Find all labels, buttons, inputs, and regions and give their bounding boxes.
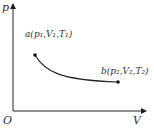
y-axis-label: p	[2, 1, 9, 14]
origin-label: O	[3, 114, 12, 127]
point-b-label: b(p₂,V₂,T₂)	[101, 66, 149, 76]
x-axis-label: V	[133, 114, 141, 127]
point-a-label: a(p₁,V₁,T₁)	[25, 29, 72, 39]
point-b-dot	[116, 80, 120, 84]
point-a-dot	[33, 53, 37, 57]
